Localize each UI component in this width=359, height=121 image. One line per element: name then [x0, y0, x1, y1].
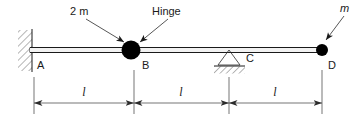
beam-member — [30, 48, 324, 53]
dimension-label-cd: l — [273, 85, 277, 99]
callout-label-m: m — [340, 2, 349, 14]
leader-line-hinge — [140, 19, 168, 42]
node-label-d: D — [328, 59, 336, 71]
mass-node-d — [316, 44, 328, 56]
node-label-b: B — [142, 59, 149, 71]
hinge-node-b — [122, 41, 141, 60]
callout-label-2m: 2 m — [70, 5, 88, 17]
dimension-extension-lines — [34, 70, 322, 114]
beam-diagram: 2 m Hinge m A B C D l l l — [0, 0, 359, 121]
dimension-label-bc: l — [179, 85, 183, 99]
leader-line-m — [326, 16, 344, 40]
leader-lines — [86, 16, 344, 42]
leader-line-2m — [86, 19, 124, 42]
diagram-canvas: 2 m Hinge m A B C D l l l — [0, 0, 359, 121]
dimension-label-ab: l — [82, 85, 86, 99]
callout-label-hinge: Hinge — [152, 5, 181, 17]
node-label-a: A — [37, 59, 45, 71]
pin-support-c — [214, 50, 245, 74]
node-label-c: C — [246, 52, 254, 64]
